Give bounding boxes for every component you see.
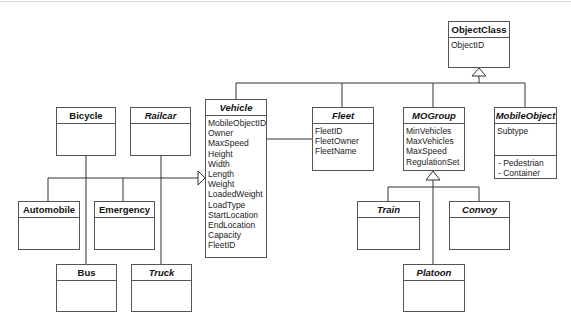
- class-name: MOGroup: [404, 108, 464, 124]
- attribute: Subtype: [497, 126, 556, 136]
- class-bicycle[interactable]: Bicycle: [56, 107, 116, 156]
- class-bus[interactable]: Bus: [56, 264, 117, 312]
- class-fleet[interactable]: Fleet FleetID FleetOwner FleetName: [312, 107, 374, 171]
- attribute: Weight: [208, 179, 266, 189]
- subtype-item: - Container: [498, 168, 556, 178]
- class-mobileobject[interactable]: MobileObject Subtype - Pedestrian - Cont…: [494, 107, 557, 179]
- attribute: FleetName: [315, 146, 373, 156]
- generalization-arrow-objectclass: [472, 68, 486, 76]
- attribute: EndLocation: [208, 220, 266, 230]
- attribute: Owner: [208, 128, 266, 138]
- attribute: LoadType: [208, 200, 266, 210]
- class-name: Train: [358, 202, 419, 218]
- attribute: Width: [208, 159, 266, 169]
- class-name: Bus: [57, 265, 116, 281]
- attribute: RegulationSet: [406, 157, 464, 167]
- generalization-arrow-vehicle: [198, 171, 205, 185]
- class-emergency[interactable]: Emergency: [94, 201, 155, 250]
- subtype-list: - Pedestrian - Container: [495, 155, 556, 178]
- class-truck[interactable]: Truck: [131, 264, 192, 312]
- attribute: ObjectID: [451, 40, 509, 50]
- class-name: Vehicle: [206, 100, 266, 116]
- class-vehicle[interactable]: Vehicle MobileObjectID Owner MaxSpeed He…: [205, 99, 267, 258]
- attribute: Capacity: [208, 230, 266, 240]
- class-name: MobileObject: [495, 108, 556, 124]
- class-mogroup[interactable]: MOGroup MinVehicles MaxVehicles MaxSpeed…: [403, 107, 465, 171]
- class-railcar[interactable]: Railcar: [130, 107, 191, 156]
- generalization-arrow-mogroup: [426, 171, 440, 180]
- attribute: MinVehicles: [406, 126, 464, 136]
- attribute: FleetOwner: [315, 136, 373, 146]
- class-name: Emergency: [95, 202, 154, 218]
- attribute: FleetID: [315, 126, 373, 136]
- attribute: MaxVehicles: [406, 136, 464, 146]
- attribute: FleetID: [208, 240, 266, 250]
- attribute: StartLocation: [208, 210, 266, 220]
- class-objectclass[interactable]: ObjectClass ObjectID: [448, 21, 510, 68]
- attribute: LoadedWeight: [208, 189, 266, 199]
- attribute: Height: [208, 149, 266, 159]
- class-name: Railcar: [131, 108, 190, 124]
- attribute: Length: [208, 169, 266, 179]
- class-automobile[interactable]: Automobile: [18, 201, 80, 250]
- class-convoy[interactable]: Convoy: [449, 201, 510, 250]
- attribute: MaxSpeed: [208, 138, 266, 148]
- subtype-item: - Pedestrian: [498, 158, 556, 168]
- class-name: Automobile: [19, 202, 79, 218]
- class-name: Convoy: [450, 202, 509, 218]
- class-platoon[interactable]: Platoon: [403, 264, 465, 312]
- class-name: Platoon: [404, 265, 464, 281]
- attribute: MobileObjectID: [208, 118, 266, 128]
- class-name: Fleet: [313, 108, 373, 124]
- class-name: Bicycle: [57, 108, 115, 124]
- class-train[interactable]: Train: [357, 201, 420, 250]
- class-name: Truck: [132, 265, 191, 281]
- attribute: MaxSpeed: [406, 146, 464, 156]
- class-name: ObjectClass: [449, 22, 509, 38]
